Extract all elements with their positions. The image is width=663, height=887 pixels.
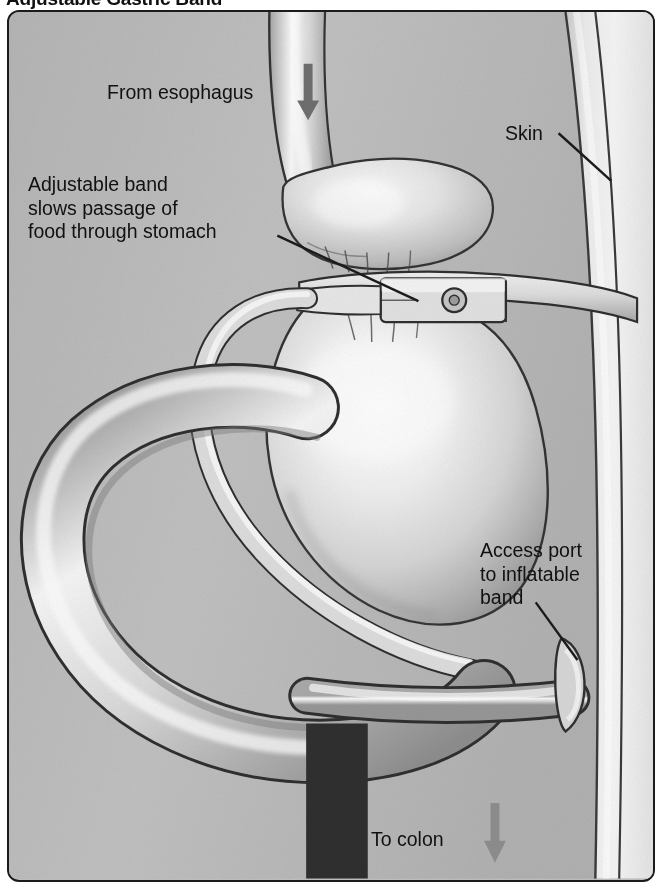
gastric-band-illustration	[9, 12, 653, 879]
label-access-port: Access port to inflatable band	[480, 539, 582, 610]
page-title: Adjustable Gastric Band	[6, 0, 222, 10]
label-skin: Skin	[505, 122, 543, 146]
figure-frame: From esophagus Skin Adjustable band slow…	[7, 10, 655, 882]
port-bowel-segment	[307, 688, 571, 705]
label-adjustable-band: Adjustable band slows passage of food th…	[28, 173, 217, 244]
descending-bowel	[329, 724, 337, 879]
label-from-esophagus: From esophagus	[107, 81, 253, 105]
label-to-colon: To colon	[371, 828, 444, 852]
